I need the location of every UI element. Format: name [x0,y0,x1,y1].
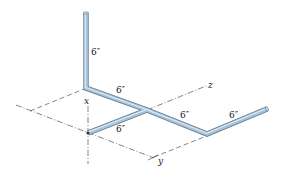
dim-label-final-segment: 6″ [229,110,239,120]
projection-line-bottom [154,137,204,157]
y-axis-tick [148,155,158,160]
axis-label-y: y [157,156,164,166]
axis-label-x: x [84,96,89,106]
pipe-segments [85,13,267,134]
origin-point [86,131,89,134]
dim-label-upper-diagonal: 6″ [116,85,126,95]
dim-label-lower-diagonal: 6″ [116,124,126,134]
dim-label-vertical: 6″ [91,47,101,57]
projection-line-left [30,89,84,111]
dim-label-z-segment: 6″ [180,110,190,120]
pipe-assembly-diagram: 6″ 6″ 6″ 6″ 6″ x y z [0,0,281,177]
pipe-end-top [83,12,88,14]
axis-label-z: z [207,80,213,90]
z-axis-line [147,86,206,110]
